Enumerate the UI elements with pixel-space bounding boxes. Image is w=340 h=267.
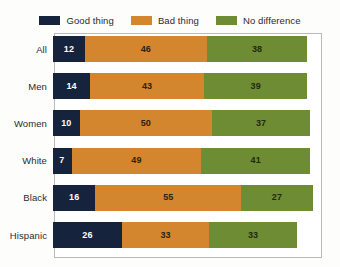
chart-legend: Good thingBad thingNo difference: [0, 12, 340, 28]
bar-value-label: 38: [252, 45, 262, 54]
legend-swatch-good: [39, 16, 60, 25]
category-label-black: Black: [0, 192, 51, 203]
bar-value-label: 10: [61, 119, 71, 128]
bar-value-label: 14: [66, 82, 76, 91]
bar-row: All124638: [0, 36, 340, 62]
legend-label-nodiff: No difference: [243, 15, 301, 26]
bar-segment-bad: 50: [80, 110, 213, 136]
bar-row: Black165527: [0, 185, 340, 211]
stacked-bar: 74941: [53, 148, 340, 174]
category-label-women: Women: [0, 118, 51, 129]
bar-segment-nodiff: 41: [201, 148, 310, 174]
bar-segment-bad: 33: [122, 222, 209, 248]
category-label-all: All: [0, 44, 51, 55]
bar-value-label: 43: [142, 82, 152, 91]
bar-segment-nodiff: 39: [204, 73, 307, 99]
bar-segment-bad: 49: [72, 148, 202, 174]
bar-value-label: 12: [64, 45, 74, 54]
bar-value-label: 33: [248, 231, 258, 240]
category-label-men: Men: [0, 81, 51, 92]
bar-value-label: 37: [256, 119, 266, 128]
bar-segment-bad: 46: [85, 36, 207, 62]
bar-segment-good: 10: [53, 110, 80, 136]
stacked-bar: 263333: [53, 222, 340, 248]
category-label-white: White: [0, 155, 51, 166]
bar-segment-good: 26: [53, 222, 122, 248]
category-label-hispanic: Hispanic: [0, 230, 51, 241]
bar-segment-nodiff: 27: [241, 185, 313, 211]
bar-row: Women105037: [0, 110, 340, 136]
legend-entry-bad: Bad thing: [131, 15, 199, 26]
bar-value-label: 49: [131, 156, 141, 165]
bar-segment-good: 16: [53, 185, 95, 211]
bar-segment-nodiff: 33: [209, 222, 296, 248]
bar-segment-bad: 43: [90, 73, 204, 99]
legend-swatch-nodiff: [216, 16, 237, 25]
bar-value-label: 27: [272, 193, 282, 202]
bar-value-label: 41: [251, 156, 261, 165]
bar-row: Men144339: [0, 73, 340, 99]
legend-swatch-bad: [131, 16, 152, 25]
legend-entry-nodiff: No difference: [216, 15, 301, 26]
stacked-bar: 165527: [53, 185, 340, 211]
bar-value-label: 39: [251, 82, 261, 91]
bar-value-label: 50: [141, 119, 151, 128]
bar-row: White74941: [0, 148, 340, 174]
bar-segment-good: 12: [53, 36, 85, 62]
stacked-bar: 144339: [53, 73, 340, 99]
bar-segment-nodiff: 38: [207, 36, 308, 62]
bar-segment-bad: 55: [95, 185, 241, 211]
legend-entry-good: Good thing: [39, 15, 113, 26]
bar-value-label: 7: [59, 156, 65, 165]
bar-rows-container: All124638Men144339Women105037White74941B…: [0, 33, 340, 258]
bar-row: Hispanic263333: [0, 222, 340, 248]
bar-value-label: 26: [82, 231, 92, 240]
bar-value-label: 16: [69, 193, 79, 202]
bar-segment-good: 14: [53, 73, 90, 99]
bar-value-label: 46: [141, 45, 151, 54]
bar-segment-nodiff: 37: [212, 110, 310, 136]
bar-value-label: 33: [161, 231, 171, 240]
stacked-bar: 124638: [53, 36, 340, 62]
legend-label-bad: Bad thing: [158, 15, 199, 26]
legend-label-good: Good thing: [66, 15, 113, 26]
bar-segment-good: 7: [53, 148, 72, 174]
stacked-bar: 105037: [53, 110, 340, 136]
bar-value-label: 55: [163, 193, 173, 202]
